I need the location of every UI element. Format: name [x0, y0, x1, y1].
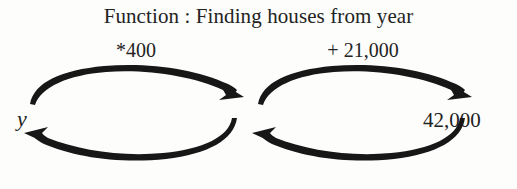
- arrow-group: [0, 0, 517, 189]
- forward-left-arrow-icon: [30, 65, 244, 105]
- reverse-left-arrow-icon: [24, 118, 237, 161]
- reverse-right-arrow-icon: [252, 118, 465, 161]
- function-machine-diagram: Function : Finding houses from year *400…: [0, 0, 517, 189]
- forward-right-arrow-icon: [258, 65, 472, 105]
